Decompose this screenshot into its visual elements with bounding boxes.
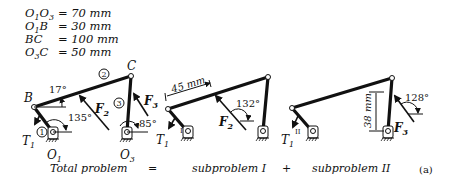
angle-135-label: 135° [68, 112, 92, 123]
given-bc-value: = 100 mm [58, 32, 119, 46]
dimension-45-label: 45 mm [169, 74, 207, 95]
caption-sub2: subproblem II [312, 162, 391, 175]
given-o1b-value: = 30 mm [58, 19, 111, 33]
mechanism-diagram: O1O3 = 70 mm O1B = 30 mm BC = 100 mm O3C… [0, 0, 457, 189]
pivot-o1-sub2 [306, 126, 319, 141]
svg-text:I: I [180, 127, 183, 135]
torque-t1-sub2-label: T1 [281, 133, 294, 149]
svg-text:II: II [295, 128, 301, 136]
pivot-o1 [46, 127, 59, 142]
caption-plus: + [282, 162, 291, 175]
svg-text:1: 1 [40, 128, 45, 137]
angle-132-label: 132° [236, 98, 260, 109]
force-f2-label: F2 [94, 102, 110, 118]
caption-tag: (a) [419, 164, 433, 175]
given-bc: BC [24, 32, 43, 46]
joint-c [129, 74, 134, 79]
given-dimensions: O1O3 = 70 mm O1B = 30 mm BC = 100 mm O3C… [24, 6, 119, 61]
caption: Total problem = subproblem I + subproble… [50, 162, 433, 175]
label-c: C [127, 59, 136, 73]
subproblem-1: 45 mm T1 I F2 132° [156, 74, 271, 149]
caption-equals: = [148, 162, 157, 175]
pivot-o3-sub1 [256, 126, 269, 141]
svg-text:2: 2 [102, 70, 107, 79]
torque-t1-sub2-arrow [293, 116, 298, 127]
angle-85-label: 85° [139, 118, 157, 129]
given-o1o3-value: = 70 mm [58, 6, 111, 20]
total-problem: B C 17° 2 3 1 T1 135° O1 O3 F2 F3 85° [22, 59, 159, 164]
force-f2-sub1-label: F2 [218, 115, 234, 131]
dimension-38-label: 38 mm [362, 93, 373, 128]
caption-sub1: subproblem I [192, 162, 267, 175]
pivot-o3 [120, 127, 133, 142]
subproblem-2: T1 II 38 mm F3 128° [281, 76, 429, 150]
given-o3c: O3C [25, 45, 49, 61]
label-b: B [23, 91, 33, 105]
angle-17-label: 17° [49, 84, 67, 95]
torque-t1-arrow [35, 115, 40, 124]
pivot-o3-sub2 [381, 126, 394, 141]
pivot-o1-sub1 [181, 126, 194, 141]
force-f3-sub2-label: F3 [393, 121, 409, 137]
svg-text:3: 3 [117, 99, 122, 108]
torque-t1-label: T1 [22, 134, 35, 150]
link-3 [127, 76, 131, 132]
caption-total: Total problem [50, 162, 128, 175]
torque-t1-sub1-arrow [169, 118, 175, 128]
angle-128-label: 128° [405, 92, 429, 103]
force-f3-label: F3 [143, 94, 159, 110]
given-o3c-value: = 50 mm [58, 45, 111, 59]
torque-t1-sub1-label: T1 [156, 133, 169, 149]
